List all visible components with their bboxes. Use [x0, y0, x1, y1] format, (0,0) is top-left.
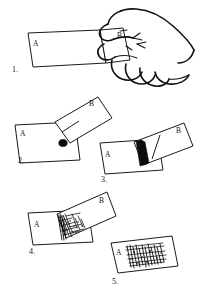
panel1-step-number: 1.	[12, 65, 18, 74]
card-sequence-figure: A B 1.	[0, 0, 204, 291]
panel2-label-a: A	[20, 129, 26, 138]
panel3-label-b: B	[176, 126, 181, 135]
panel4-label-b: B	[99, 196, 104, 205]
panel2-label-b: B	[89, 99, 94, 108]
panel3-step-number: 3.	[101, 175, 107, 184]
panel2-step-number: 2.	[18, 156, 24, 165]
panel4-step-number: 4.	[29, 247, 35, 256]
panel1-label-a: A	[33, 39, 39, 48]
panel1-card-a	[28, 30, 106, 67]
panel3-label-a: A	[105, 150, 111, 159]
figure-root: A B 1.	[0, 0, 204, 291]
panel2-contact-dot	[59, 139, 67, 146]
panel5-label-a: A	[116, 248, 122, 257]
panel5-step-number: 5.	[112, 277, 118, 286]
panel4-label-a: A	[34, 220, 40, 229]
